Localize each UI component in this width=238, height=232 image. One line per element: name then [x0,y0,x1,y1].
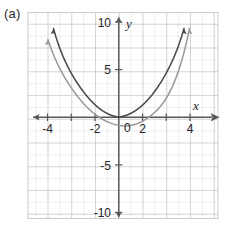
figure-panel: (a) [0,0,238,232]
coordinate-plane: -4 -2 2 4 10 5 -5 -10 0 x y [0,0,238,232]
y-tick-label-5: 5 [104,63,111,77]
x-tick-label-neg4: -4 [42,122,53,136]
x-axis-name: x [192,98,199,113]
y-tick-label-10: 10 [98,16,112,30]
x-tick-label-2: 2 [139,122,146,136]
y-tick-label-neg10: -10 [94,206,112,220]
x-tick-label-4: 4 [187,122,194,136]
y-tick-label-neg5: -5 [100,159,111,173]
x-tick-label-neg2: -2 [90,122,101,136]
origin-label: 0 [124,121,131,135]
y-axis-name: y [124,16,132,31]
